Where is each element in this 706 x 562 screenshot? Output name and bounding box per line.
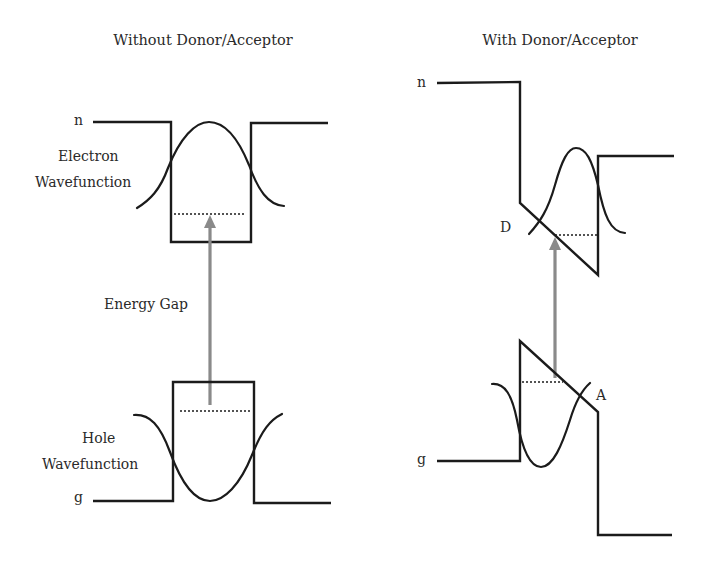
right-acceptor-label: A (596, 388, 606, 402)
right-hole-wavefunction (492, 383, 590, 467)
left-hole-label-line1: Hole (82, 431, 115, 445)
right-electron-wavefunction (529, 148, 625, 234)
left-arrowhead-icon (204, 215, 216, 228)
left-electron-label-line1: Electron (58, 149, 119, 163)
right-panel (437, 82, 674, 535)
right-valence-label: g (417, 452, 426, 466)
left-energy-gap-label: Energy Gap (104, 297, 188, 311)
left-conduction-label: n (74, 113, 83, 127)
left-hole-wavefunction (134, 414, 282, 501)
left-electron-wavefunction (137, 122, 284, 208)
left-hole-label-line2: Wavefunction (42, 457, 138, 471)
left-panel-title: Without Donor/Acceptor (93, 33, 313, 48)
band-diagram-figure: Without Donor/Acceptor n Electron Wavefu… (0, 0, 706, 562)
left-electron-label-line2: Wavefunction (35, 175, 131, 189)
right-panel-title: With Donor/Acceptor (460, 33, 660, 48)
left-valence-label: g (74, 490, 83, 504)
left-valence-band (93, 382, 331, 503)
right-conduction-label: n (417, 75, 426, 89)
band-diagram-drawing (0, 0, 706, 562)
right-donor-label: D (500, 220, 511, 234)
